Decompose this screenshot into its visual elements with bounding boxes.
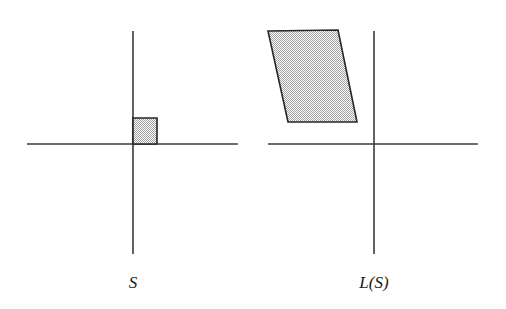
panel-image: L(S) <box>268 30 478 292</box>
parallelogram-shape <box>268 30 357 122</box>
unit-square-shape <box>133 118 157 144</box>
figure-canvas: S L(S) <box>0 0 506 309</box>
caption-source: S <box>129 273 138 292</box>
panel-source: S <box>27 31 238 292</box>
caption-image: L(S) <box>358 273 389 292</box>
diagram-svg: S L(S) <box>0 0 506 309</box>
